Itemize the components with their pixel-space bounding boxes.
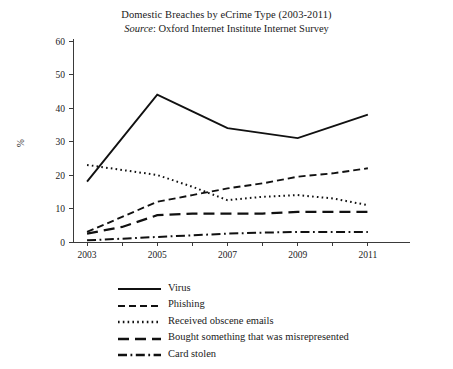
legend-item-label: Bought something that was misrepresented: [168, 331, 349, 342]
legend-item-label: Phishing: [168, 298, 205, 309]
legend-item[interactable]: Virus: [118, 279, 438, 296]
x-axis-tick-label: 2011: [359, 250, 378, 260]
series-line-bought-something-that-was-misrepresented: [87, 212, 368, 234]
legend-item[interactable]: Received obscene emails: [118, 312, 438, 329]
y-axis-tick-label: 0: [60, 238, 65, 248]
chart-series-group: [87, 95, 368, 241]
chart-legend: VirusPhishingReceived obscene emailsBoug…: [118, 279, 438, 362]
legend-item[interactable]: Card stolen: [118, 345, 438, 362]
y-axis-label: %: [16, 139, 26, 147]
legend-item-label: Card stolen: [168, 348, 216, 359]
x-axis-tick-label: 2009: [288, 250, 307, 260]
legend-item[interactable]: Bought something that was misrepresented: [118, 329, 438, 346]
y-axis-tick-label: 10: [56, 204, 66, 214]
series-line-card-stolen: [87, 232, 368, 240]
legend-line-swatch: [118, 347, 161, 359]
chart-axes: 010203040506020032005200720092011%: [16, 37, 410, 261]
series-line-virus: [87, 95, 368, 182]
x-axis-tick-label: 2003: [78, 250, 97, 260]
y-axis-tick-label: 20: [56, 171, 66, 181]
legend-item-label: Virus: [168, 282, 191, 293]
y-axis-tick-label: 50: [56, 70, 66, 80]
y-axis-tick-label: 40: [56, 104, 66, 114]
chart-figure: Domestic Breaches by eCrime Type (2003-2…: [0, 0, 453, 369]
x-axis-tick-label: 2005: [148, 250, 167, 260]
y-axis-tick-label: 60: [56, 37, 66, 47]
x-axis-tick-label: 2007: [218, 250, 237, 260]
legend-line-swatch: [118, 298, 161, 310]
legend-line-swatch: [118, 281, 161, 293]
y-axis-tick-label: 30: [56, 137, 66, 147]
legend-line-swatch: [118, 314, 161, 326]
legend-line-swatch: [118, 331, 161, 343]
series-line-received-obscene-emails: [87, 165, 368, 205]
legend-item[interactable]: Phishing: [118, 296, 438, 313]
legend-item-label: Received obscene emails: [168, 315, 274, 326]
